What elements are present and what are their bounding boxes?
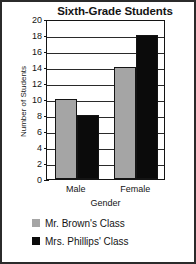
bar bbox=[77, 115, 99, 179]
chart-legend: Mr. Brown's ClassMrs. Phillips' Class bbox=[32, 214, 182, 250]
legend-swatch-icon bbox=[32, 219, 40, 227]
chart-figure: Sixth-Grade Students Number of Students … bbox=[0, 0, 196, 264]
bar bbox=[114, 67, 136, 179]
y-tick-label: 12 bbox=[32, 80, 42, 89]
bar bbox=[136, 35, 158, 179]
chart-title: Sixth-Grade Students bbox=[36, 5, 194, 17]
bar bbox=[55, 99, 77, 179]
legend-swatch-icon bbox=[32, 237, 40, 245]
y-tick-label: 2 bbox=[37, 160, 42, 169]
y-tick-label: 18 bbox=[32, 32, 42, 41]
legend-item: Mr. Brown's Class bbox=[32, 214, 182, 232]
y-tick-label: 10 bbox=[32, 96, 42, 105]
x-tick-label: Female bbox=[106, 184, 166, 194]
y-axis-tick-labels: 20181614121086420 bbox=[22, 16, 44, 188]
y-tick-label: 16 bbox=[32, 48, 42, 57]
bar-group bbox=[47, 21, 164, 179]
legend-item: Mrs. Phillips' Class bbox=[32, 232, 182, 250]
y-tick-mark bbox=[44, 180, 49, 181]
y-tick-label: 0 bbox=[37, 176, 42, 185]
x-axis-tick-labels: MaleFemale bbox=[46, 184, 165, 196]
y-tick-label: 8 bbox=[37, 112, 42, 121]
y-tick-label: 6 bbox=[37, 128, 42, 137]
legend-label: Mr. Brown's Class bbox=[45, 218, 125, 229]
x-tick-label: Male bbox=[46, 184, 106, 194]
legend-label: Mrs. Phillips' Class bbox=[45, 236, 129, 247]
x-axis-title: Gender bbox=[46, 198, 165, 208]
y-tick-label: 20 bbox=[32, 16, 42, 25]
y-tick-label: 4 bbox=[37, 144, 42, 153]
y-tick-label: 14 bbox=[32, 64, 42, 73]
plot-area bbox=[46, 20, 165, 180]
